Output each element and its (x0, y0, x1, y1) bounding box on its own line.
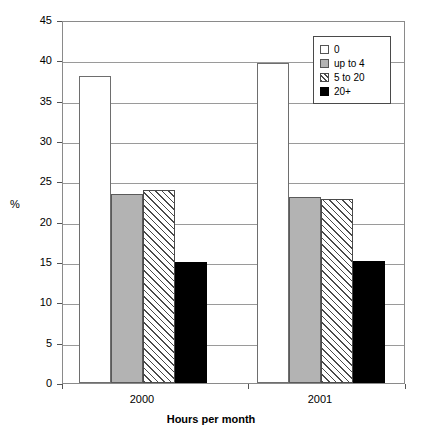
legend-swatch-icon (320, 87, 329, 96)
x-tick-label: 2000 (102, 393, 182, 405)
y-tick-label: 15 (10, 257, 52, 267)
bar-2000-0 (79, 76, 111, 383)
bar-2000-20+ (175, 262, 207, 383)
bar-2000-5-to-20 (143, 190, 175, 383)
legend-swatch-icon (320, 45, 329, 54)
legend-swatch-icon (320, 59, 329, 68)
bar-2001-5-to-20 (321, 199, 353, 383)
y-tick-label: 40 (10, 55, 52, 65)
legend-item-up-to-4: up to 4 (320, 56, 385, 70)
legend-item-5-to-20: 5 to 20 (320, 70, 385, 84)
bar-2000-up-to-4 (111, 194, 143, 383)
chart-legend: 0up to 45 to 2020+ (313, 36, 391, 104)
y-tick-label: 0 (10, 378, 52, 388)
y-tick-label: 45 (10, 15, 52, 25)
y-tick-label: 10 (10, 297, 52, 307)
y-tick-label: 25 (10, 176, 52, 186)
legend-item-20+: 20+ (320, 84, 385, 98)
bar-chart: % 051015202530354045 20002001 Hours per … (0, 0, 422, 441)
x-tick-mark (248, 384, 249, 389)
legend-label: up to 4 (334, 58, 365, 69)
bar-2001-up-to-4 (289, 197, 321, 383)
legend-item-0: 0 (320, 42, 385, 56)
legend-swatch-icon (320, 73, 329, 82)
y-tick-label: 5 (10, 338, 52, 348)
x-tick-label: 2001 (280, 393, 360, 405)
y-axis-label: % (10, 198, 20, 210)
y-tick-label: 35 (10, 96, 52, 106)
legend-label: 5 to 20 (334, 72, 365, 83)
legend-label: 0 (334, 44, 340, 55)
legend-label: 20+ (334, 86, 351, 97)
bar-2001-20+ (353, 261, 385, 383)
x-tick-mark (405, 384, 406, 389)
bar-2001-0 (257, 63, 289, 383)
y-tick-label: 30 (10, 136, 52, 146)
y-tick-label: 20 (10, 217, 52, 227)
x-tick-mark (62, 384, 63, 389)
x-axis-title: Hours per month (0, 413, 422, 425)
